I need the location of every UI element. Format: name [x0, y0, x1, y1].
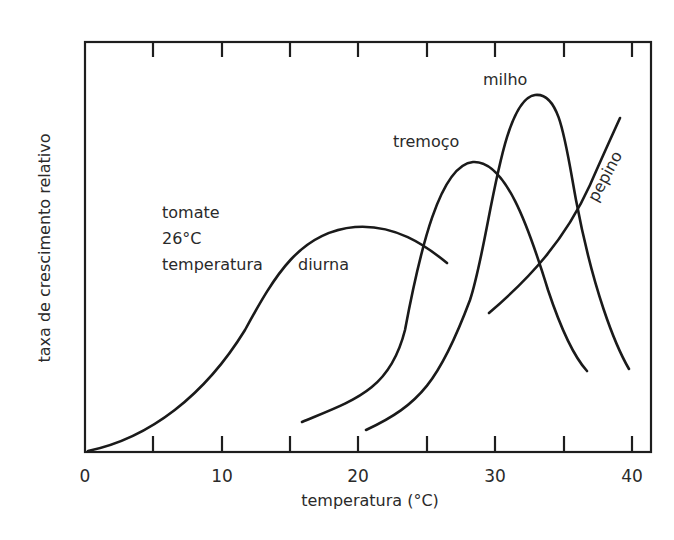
label-tomate-diurna: diurna: [298, 255, 349, 274]
x-tick-label-0: 0: [80, 466, 91, 486]
label-tomate-temp: 26°C: [162, 229, 202, 248]
chart-svg: 0 10 20 30 40 temperatura (°C) taxa de c…: [0, 0, 674, 540]
x-tick-label-20: 20: [347, 466, 369, 486]
curve-tomate: [88, 227, 447, 451]
label-tremoco: tremoço: [393, 132, 459, 151]
label-milho: milho: [483, 70, 527, 89]
x-tick-label-10: 10: [211, 466, 233, 486]
label-tomate-temperatura: temperatura: [162, 255, 263, 274]
x-axis-ticks-top: [153, 42, 632, 57]
x-tick-label-30: 30: [484, 466, 506, 486]
curve-pepino: [489, 118, 620, 313]
curve-tremoco: [302, 162, 587, 422]
label-pepino: pepino: [584, 148, 626, 205]
x-axis-ticks-bottom: [153, 436, 632, 452]
y-axis-title: taxa de crescimento relativo: [35, 134, 54, 363]
x-axis-title: temperatura (°C): [301, 491, 439, 510]
growth-rate-chart: 0 10 20 30 40 temperatura (°C) taxa de c…: [0, 0, 674, 540]
label-tomate: tomate: [162, 203, 220, 222]
x-tick-label-40: 40: [621, 466, 643, 486]
